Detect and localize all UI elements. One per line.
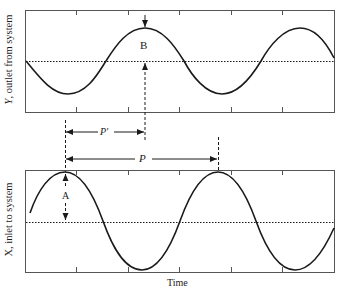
bottom-panel [26,170,335,273]
top-y-axis-label: Y, outlet from system [3,5,14,115]
label-lag: P′ [100,127,108,137]
diagram-canvas [0,0,344,292]
label-b: B [140,40,147,51]
top-panel [26,10,335,140]
dimension-lines [66,120,219,172]
input-wave [30,172,334,270]
label-a: A [62,191,69,201]
top-y-var: Y [3,99,14,105]
bottom-y-axis-label: X, inlet to system [3,172,14,268]
top-y-text: , outlet from system [3,15,14,99]
x-axis-label: Time [167,278,188,288]
label-period: P [139,153,146,164]
